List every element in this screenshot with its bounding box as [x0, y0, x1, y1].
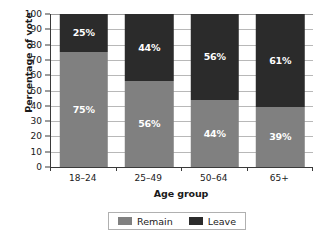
legend-item[interactable]: Remain	[118, 216, 173, 227]
x-axis-tick-label: 50–64	[181, 173, 247, 183]
y-axis-tick-label: 10	[31, 147, 42, 157]
bar-segment-remain[interactable]: 39%	[256, 107, 304, 167]
y-axis-tick-label: 100	[25, 9, 42, 19]
bar-segment-leave[interactable]: 25%	[60, 14, 108, 52]
legend-swatch-icon	[189, 217, 203, 225]
stacked-bar[interactable]: 56%44%	[191, 14, 239, 167]
plot-area: 25%75%44%56%56%44%61%39%	[50, 14, 313, 168]
bar-slot: 56%44%	[182, 14, 248, 167]
x-axis-title: Age group	[50, 188, 312, 199]
y-axis-tick-label: 80	[31, 40, 42, 50]
bar-slot: 25%75%	[51, 14, 117, 167]
legend-item[interactable]: Leave	[189, 216, 236, 227]
bar-segment-leave[interactable]: 44%	[125, 14, 173, 81]
bar-value-label: 56%	[204, 52, 226, 62]
x-axis-tick-mark	[181, 167, 182, 171]
bar-slot: 61%39%	[248, 14, 314, 167]
bar-segment-leave[interactable]: 56%	[191, 14, 239, 100]
x-axis-tick-label: 18–24	[50, 173, 116, 183]
bar-segment-leave[interactable]: 61%	[256, 14, 304, 107]
chart-legend: RemainLeave	[108, 212, 246, 230]
x-axis-tick-label: 65+	[247, 173, 313, 183]
x-axis-tick-mark	[247, 167, 248, 171]
stacked-bar[interactable]: 25%75%	[60, 14, 108, 167]
y-axis-tick-label: 30	[31, 116, 42, 126]
y-axis-tick-label: 0	[36, 162, 42, 172]
legend-label: Leave	[208, 216, 236, 227]
stacked-bar[interactable]: 61%39%	[256, 14, 304, 167]
bar-segment-remain[interactable]: 56%	[125, 81, 173, 167]
y-axis-tick-label: 60	[31, 70, 42, 80]
x-axis-tick-mark	[312, 167, 313, 171]
y-axis-tick-label: 50	[31, 86, 42, 96]
bar-value-label: 39%	[269, 132, 291, 142]
y-axis-tick-label: 20	[31, 131, 42, 141]
legend-swatch-icon	[118, 217, 132, 225]
bar-value-label: 44%	[138, 43, 160, 53]
stacked-bar[interactable]: 44%56%	[125, 14, 173, 167]
bar-value-label: 44%	[204, 129, 226, 139]
bar-slot: 44%56%	[117, 14, 183, 167]
y-axis-tick-label: 40	[31, 101, 42, 111]
bar-segment-remain[interactable]: 75%	[60, 52, 108, 167]
bar-value-label: 75%	[73, 105, 95, 115]
x-axis-tick-mark	[116, 167, 117, 171]
x-axis-tick-label: 25–49	[116, 173, 182, 183]
stacked-bar-chart: Percentage of vote 100908070605040302010…	[0, 0, 319, 241]
y-axis-tick-label: 70	[31, 55, 42, 65]
bar-value-label: 61%	[269, 56, 291, 66]
bar-segment-remain[interactable]: 44%	[191, 100, 239, 167]
bar-value-label: 56%	[138, 119, 160, 129]
legend-label: Remain	[137, 216, 173, 227]
y-axis-tick-label: 90	[31, 24, 42, 34]
bar-group: 25%75%44%56%56%44%61%39%	[51, 14, 313, 167]
bar-value-label: 25%	[73, 28, 95, 38]
x-axis-tick-labels: 18–2425–4950–6465+	[50, 173, 312, 183]
y-axis-tick-labels: 1009080706050403020100	[0, 14, 50, 167]
x-axis-tick-mark	[50, 167, 51, 171]
